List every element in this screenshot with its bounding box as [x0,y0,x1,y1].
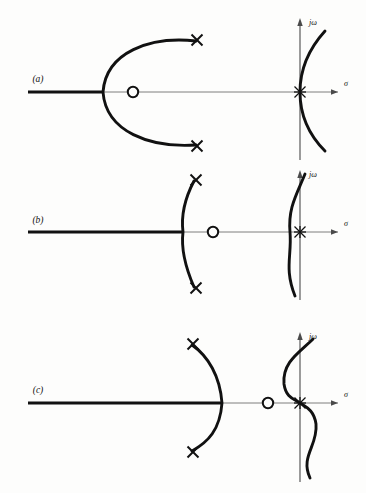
panel-a-locus-branch [103,40,196,145]
panel-c-origin-pole [294,397,306,409]
panel-a-zero-marker [128,87,138,97]
panel-c-jomega-arrowhead [297,332,302,340]
panel-a-sigma-label: σ [344,79,349,88]
panel-c-pole-upper [188,339,199,350]
panel-b-locus-branch [182,181,194,287]
panel-c-locus-branch [192,345,222,451]
panel-a-jomega-arrowhead [297,18,302,26]
panel-c-zero-marker [263,398,273,408]
panel-b-sigma-arrowhead [331,229,338,234]
panel-b-jomega-label: jω [308,170,317,179]
panel-b-origin-pole [294,226,306,238]
panel-b: (b) jω σ [28,170,349,300]
panel-c-label: (c) [33,385,44,396]
panel-a-sigma-arrowhead [331,89,338,94]
panel-b-pole-lower [191,283,202,294]
panel-c-pole-lower [188,447,199,458]
root-locus-figure: (a) jω σ [0,0,366,493]
panel-c: (c) jω σ [28,332,349,482]
panel-a-origin-pole [294,86,306,98]
figure-canvas: (a) jω σ [0,0,366,493]
panel-c-sigma-arrowhead [331,400,338,405]
panel-c-sigma-label: σ [344,390,349,399]
panel-b-pole-upper [191,175,202,186]
panel-a-jomega-label: jω [308,18,317,27]
panel-b-zero-marker [208,227,218,237]
panel-a-label: (a) [32,74,43,85]
panel-a-right-branch [300,31,325,151]
panel-b-label: (b) [32,215,43,226]
panel-b-sigma-label: σ [344,219,349,228]
panel-a: (a) jω σ [28,18,349,160]
panel-b-jomega-arrowhead [297,170,302,178]
